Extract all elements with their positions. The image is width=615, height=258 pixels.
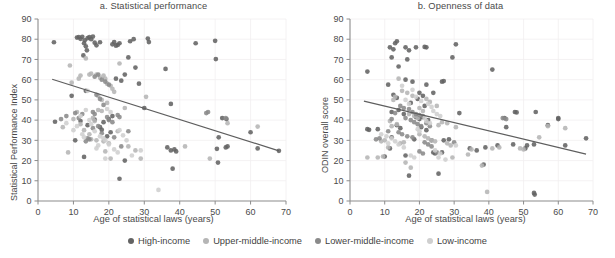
data-point: [405, 90, 410, 95]
legend-item-lower-middle-income[interactable]: Lower-middle-income: [315, 236, 414, 246]
y-tick-label: 20: [21, 156, 31, 166]
y-tick-label: 40: [21, 115, 31, 125]
data-point: [98, 40, 103, 45]
data-point: [193, 41, 198, 46]
data-point: [556, 117, 561, 122]
x-tick-label: 20: [414, 207, 424, 217]
legend-dot-icon: [203, 238, 209, 244]
data-point: [96, 124, 101, 129]
data-point: [110, 120, 115, 125]
data-point: [163, 67, 168, 72]
series-high-income: [365, 39, 588, 197]
data-point: [98, 97, 103, 102]
panel-a-x-axis-label: Age of statistical laws (years): [0, 214, 307, 224]
data-point: [71, 128, 76, 133]
data-point: [121, 133, 126, 138]
data-point: [514, 110, 519, 115]
x-tick-label: 20: [104, 207, 114, 217]
legend-item-upper-middle-income[interactable]: Upper-middle-income: [203, 236, 302, 246]
data-point: [83, 139, 88, 144]
data-point: [504, 125, 509, 130]
data-point: [563, 126, 568, 131]
data-point: [389, 124, 394, 129]
data-point: [68, 63, 73, 68]
data-point: [78, 114, 83, 119]
data-point: [119, 78, 124, 83]
data-point: [511, 142, 516, 147]
data-point: [424, 128, 429, 133]
data-point: [436, 123, 441, 128]
data-point: [403, 116, 408, 121]
data-point: [375, 127, 380, 132]
data-point: [419, 99, 424, 104]
data-point: [504, 117, 509, 122]
data-point: [130, 153, 135, 158]
data-point: [474, 148, 479, 153]
panel-openness-of-data: b. Openness of data ODIN overall score A…: [307, 0, 614, 232]
legend-item-high-income[interactable]: High-income: [128, 236, 190, 246]
data-point: [225, 144, 230, 149]
data-point: [108, 156, 113, 161]
data-point: [403, 153, 408, 158]
data-point: [401, 112, 406, 117]
data-point: [398, 126, 403, 131]
data-point: [424, 45, 429, 50]
data-point: [204, 111, 209, 116]
data-point: [400, 88, 405, 93]
data-point: [454, 125, 459, 130]
data-point: [386, 82, 391, 87]
data-point: [410, 79, 415, 84]
data-point: [537, 135, 542, 140]
legend-label: Lower-middle-income: [325, 236, 414, 246]
data-point: [122, 106, 127, 111]
data-point: [389, 136, 394, 141]
x-tick-label: 40: [175, 207, 185, 217]
y-tick-label: 70: [21, 55, 31, 65]
series-lower-middle-income: [374, 104, 509, 156]
data-point: [248, 130, 253, 135]
y-tick-label: 0: [26, 196, 31, 206]
panel-b-y-axis-label: ODIN overall score: [320, 97, 330, 173]
data-point: [107, 82, 112, 87]
data-point: [156, 188, 161, 193]
data-point: [174, 149, 179, 154]
data-point: [466, 152, 471, 157]
legend-item-low-income[interactable]: Low-income: [427, 236, 487, 246]
legend-label: Low-income: [437, 236, 487, 246]
data-point: [92, 129, 97, 134]
data-point: [365, 155, 370, 160]
data-point: [429, 105, 434, 110]
data-point: [391, 98, 396, 103]
data-point: [87, 118, 92, 123]
data-point: [454, 42, 459, 47]
data-point: [389, 117, 394, 122]
data-point: [407, 173, 412, 178]
data-point: [393, 111, 398, 116]
data-point: [52, 40, 57, 45]
x-tick-label: 70: [588, 207, 598, 217]
panel-b-scatter-svg: 0102030405060708090010203040506070: [350, 19, 593, 201]
y-tick-label: 30: [21, 136, 31, 146]
data-point: [417, 129, 422, 134]
data-point: [216, 135, 221, 140]
data-point: [94, 146, 99, 151]
data-point: [83, 108, 88, 113]
data-point: [66, 150, 71, 155]
data-point: [367, 127, 372, 132]
series-upper-middle-income: [60, 56, 260, 161]
panel-statistical-performance: a. Statistical performance Statistical P…: [0, 0, 307, 232]
data-point: [403, 160, 408, 165]
data-point: [410, 135, 415, 140]
data-point: [421, 109, 426, 114]
data-point: [82, 128, 87, 133]
data-point: [427, 121, 432, 126]
data-point: [532, 192, 537, 197]
data-point: [381, 154, 386, 159]
data-point: [396, 76, 401, 81]
data-point: [110, 114, 115, 119]
data-point: [96, 72, 101, 77]
data-point: [71, 117, 76, 122]
data-point: [255, 146, 260, 151]
data-point: [400, 83, 405, 88]
y-tick-label: 50: [333, 95, 343, 105]
